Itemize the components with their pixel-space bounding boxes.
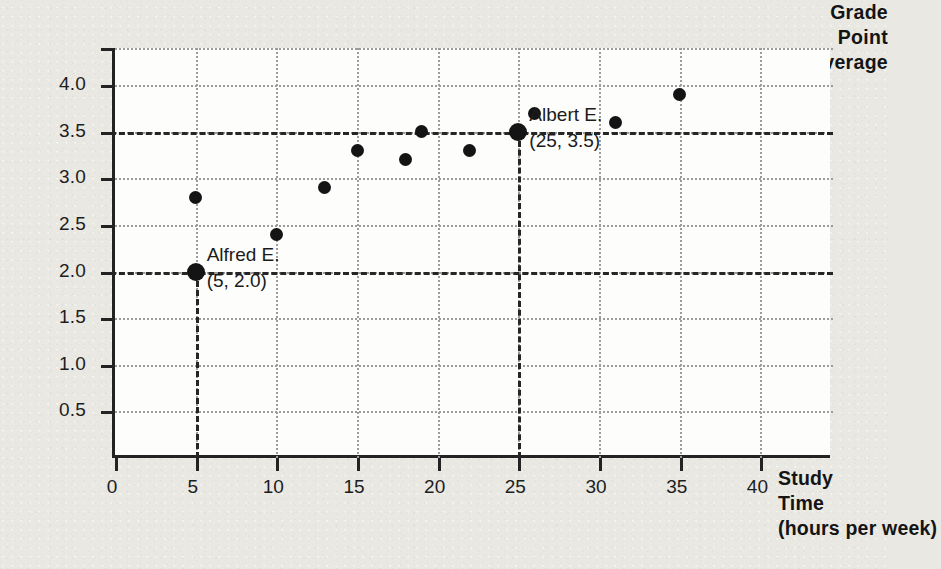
y-axis-tick: [101, 132, 115, 135]
y-axis-tick-label: 3.5: [0, 120, 86, 142]
x-axis-tick-label: 35: [637, 476, 717, 498]
gridline-vertical: [438, 48, 440, 458]
y-axis-title-line-2: Point: [838, 26, 888, 48]
gridline-horizontal: [115, 365, 833, 367]
point-annotation: Albert E.(25, 3.5): [529, 102, 602, 154]
annotation-coords: (5, 2.0): [207, 268, 280, 294]
x-axis-tick-label: 20: [395, 476, 475, 498]
y-axis-title-line-1: Grade: [830, 1, 888, 23]
y-axis-tick: [101, 85, 115, 88]
data-point: [463, 144, 476, 157]
y-axis-tick-label: 4.0: [0, 73, 86, 95]
data-point: [415, 125, 428, 138]
x-axis-tick-label: 5: [153, 476, 233, 498]
x-axis-tick: [438, 458, 441, 471]
gridline-vertical: [760, 48, 762, 458]
x-axis-tick-label: 25: [475, 476, 555, 498]
y-axis-tick: [101, 318, 115, 321]
gridline-horizontal: [115, 85, 833, 87]
x-axis-title-line-2: Time: [778, 491, 941, 516]
data-point-highlighted: [509, 123, 527, 141]
gridline-vertical: [357, 48, 359, 458]
x-axis-tick-label: 15: [314, 476, 394, 498]
gridline-horizontal: [115, 225, 833, 227]
x-axis-tick-label: 10: [233, 476, 313, 498]
x-axis-tick: [680, 458, 683, 471]
gridline-vertical: [680, 48, 682, 458]
data-point: [189, 191, 202, 204]
y-axis-tick-label: 3.0: [0, 166, 86, 188]
data-point-highlighted: [187, 263, 205, 281]
data-point: [270, 228, 283, 241]
x-axis-tick: [196, 458, 199, 471]
y-axis-tick: [101, 411, 115, 414]
x-axis-title-line-3: (hours per week): [778, 516, 941, 541]
drop-line-vertical: [518, 132, 521, 458]
gridline-horizontal: [115, 48, 833, 50]
y-axis-tick-label: 2.5: [0, 213, 86, 235]
point-annotation: Alfred E.(5, 2.0): [207, 242, 280, 294]
annotation-name: Alfred E.: [207, 242, 280, 268]
y-axis-tick-label: 1.5: [0, 306, 86, 328]
data-point: [673, 88, 686, 101]
x-axis-tick: [518, 458, 521, 471]
x-axis-tick: [599, 458, 602, 471]
annotation-name: Albert E.: [529, 102, 602, 128]
y-axis-tick: [101, 48, 115, 51]
gridline-horizontal: [115, 178, 833, 180]
x-axis-tick: [357, 458, 360, 471]
y-axis-tick: [101, 178, 115, 181]
data-point: [318, 181, 331, 194]
reference-line-horizontal: [101, 132, 833, 135]
annotation-coords: (25, 3.5): [529, 128, 602, 154]
y-axis-tick-label: 2.0: [0, 260, 86, 282]
y-axis-tick-label: 1.0: [0, 353, 86, 375]
data-point: [609, 116, 622, 129]
y-axis-tick: [101, 365, 115, 368]
y-axis-tick-label: 0.5: [0, 399, 86, 421]
y-axis-tick: [101, 272, 115, 275]
x-axis-title: Study Time (hours per week): [778, 466, 941, 541]
data-point: [351, 144, 364, 157]
y-axis-tick: [101, 225, 115, 228]
x-axis-tick: [760, 458, 763, 471]
x-axis-tick: [276, 458, 279, 471]
gridline-horizontal: [115, 411, 833, 413]
x-axis-tick-label: 40: [717, 476, 797, 498]
x-axis-title-line-1: Study: [778, 466, 941, 491]
x-axis-tick-label: 30: [556, 476, 636, 498]
data-point: [399, 153, 412, 166]
gridline-horizontal: [115, 318, 833, 320]
drop-line-vertical: [196, 272, 199, 458]
x-axis-tick-label: 0: [72, 476, 152, 498]
x-axis-tick: [115, 458, 118, 471]
